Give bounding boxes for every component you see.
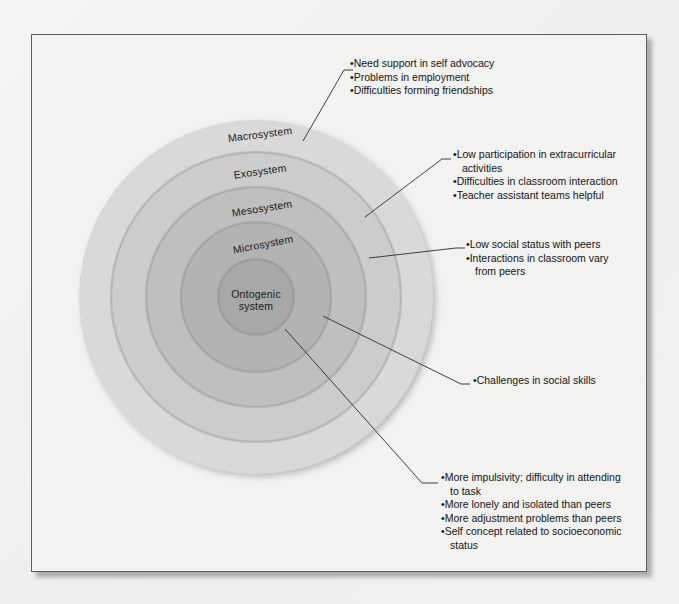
annotation-item: •Self concept related to socioeconomic <box>441 525 622 539</box>
annotation-microsystem-notes: •Challenges in social skills <box>473 374 596 388</box>
annotation-item-text: Need support in self advocacy <box>354 57 495 69</box>
annotation-item: •Problems in employment <box>350 71 494 85</box>
figure-inner: Macrosystem Exosystem Mesosystem Microsy… <box>32 35 646 571</box>
annotation-item-continuation: to task <box>441 485 622 499</box>
annotation-item-text: Teacher assistant teams helpful <box>457 189 604 201</box>
annotation-macrosystem-notes: •Need support in self advocacy•Problems … <box>350 57 494 98</box>
ring-label-ontogenic-system: Ontogenic system <box>231 288 281 312</box>
annotation-item-continuation: from peers <box>466 265 609 279</box>
annotation-item: •Difficulties in classroom interaction <box>453 175 618 189</box>
annotation-item-text: Problems in employment <box>354 71 470 83</box>
annotation-item-text: Low participation in extracurricular <box>457 148 616 160</box>
annotation-item-continuation: activities <box>453 162 618 176</box>
annotation-item-text: Low social status with peers <box>470 238 601 250</box>
ontogenic-label-line-2: system <box>239 300 273 312</box>
figure-frame: Macrosystem Exosystem Mesosystem Microsy… <box>31 34 647 572</box>
page-root: Macrosystem Exosystem Mesosystem Microsy… <box>0 0 679 604</box>
annotation-item: •Low social status with peers <box>466 238 609 252</box>
annotation-item-continuation: status <box>441 539 622 553</box>
annotation-item: •Low participation in extracurricular <box>453 148 618 162</box>
annotation-item-text: Difficulties forming friendships <box>354 84 493 96</box>
annotation-mesosystem-notes: •Low social status with peers•Interactio… <box>466 238 609 279</box>
annotation-item-text: More lonely and isolated than peers <box>445 498 611 510</box>
annotation-item: •Teacher assistant teams helpful <box>453 189 618 203</box>
annotation-item: •Challenges in social skills <box>473 374 596 388</box>
annotation-item: •Interactions in classroom vary <box>466 252 609 266</box>
annotation-item-text: Self concept related to socioeconomic <box>445 525 622 537</box>
annotation-item: •More lonely and isolated than peers <box>441 498 622 512</box>
annotation-item-text: More impulsivity; difficulty in attendin… <box>445 471 621 483</box>
annotation-item: •Need support in self advocacy <box>350 57 494 71</box>
annotation-item-text: Interactions in classroom vary <box>470 252 609 264</box>
ontogenic-label-line-1: Ontogenic <box>231 288 281 300</box>
annotation-ontogenic-notes: •More impulsivity; difficulty in attendi… <box>441 471 622 553</box>
annotation-exosystem-notes: •Low participation in extracurricularact… <box>453 148 618 202</box>
annotation-item-text: Challenges in social skills <box>477 374 596 386</box>
annotation-item: •More adjustment problems than peers <box>441 512 622 526</box>
annotation-item-text: More adjustment problems than peers <box>445 512 622 524</box>
annotation-item-text: Difficulties in classroom interaction <box>457 175 618 187</box>
annotation-item: •Difficulties forming friendships <box>350 84 494 98</box>
annotation-item: •More impulsivity; difficulty in attendi… <box>441 471 622 485</box>
